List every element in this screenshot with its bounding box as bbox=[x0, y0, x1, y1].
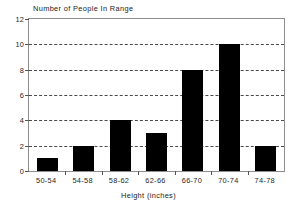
bar bbox=[182, 70, 203, 171]
x-axis-tick bbox=[138, 171, 139, 175]
y-axis-tick-label: 12 bbox=[15, 15, 24, 24]
x-axis-tick-label: 62-66 bbox=[145, 176, 165, 185]
x-axis-tick bbox=[175, 171, 176, 175]
x-axis-tick bbox=[65, 171, 66, 175]
y-axis-tick-label: 6 bbox=[20, 91, 24, 100]
bar bbox=[255, 146, 276, 171]
x-axis-tick-label: 54-58 bbox=[72, 176, 92, 185]
x-axis-tick-label: 50-54 bbox=[36, 176, 56, 185]
x-axis-tick bbox=[211, 171, 212, 175]
x-axis-tick-label: 70-74 bbox=[218, 176, 238, 185]
chart-title: Number of People In Range bbox=[33, 4, 133, 13]
y-axis-tick-label: 8 bbox=[20, 65, 24, 74]
x-axis-tick-label: 74-78 bbox=[255, 176, 275, 185]
x-axis-tick bbox=[248, 171, 249, 175]
x-axis-tick bbox=[102, 171, 103, 175]
bar bbox=[110, 120, 131, 171]
y-axis-tick bbox=[25, 171, 29, 172]
y-axis-tick-label: 4 bbox=[20, 116, 24, 125]
bar bbox=[73, 146, 94, 171]
x-axis-title: Height (inches) bbox=[0, 191, 297, 200]
y-axis-tick-label: 10 bbox=[15, 40, 24, 49]
y-axis-tick-label: 2 bbox=[20, 141, 24, 150]
bar-chart: Number of People In Range 024681012 50-5… bbox=[0, 0, 297, 210]
bar bbox=[219, 44, 240, 171]
x-axis-tick-label: 66-70 bbox=[182, 176, 202, 185]
plot-area: 024681012 bbox=[28, 18, 285, 172]
bar bbox=[37, 158, 58, 171]
bars-layer bbox=[29, 19, 284, 171]
bar bbox=[146, 133, 167, 171]
x-axis-tick-label: 58-62 bbox=[109, 176, 129, 185]
y-axis-tick-label: 0 bbox=[20, 167, 24, 176]
